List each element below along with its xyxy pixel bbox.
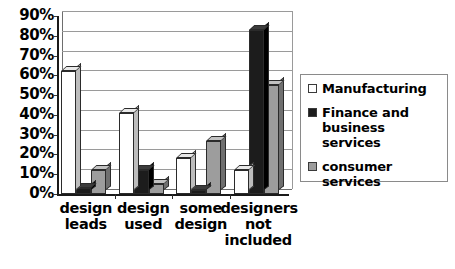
y-axis-tick-label: 10% bbox=[2, 164, 54, 182]
bar-side bbox=[76, 63, 81, 190]
bar-face bbox=[76, 188, 91, 194]
bar-face bbox=[119, 113, 134, 194]
y-axis-tick-label: 80% bbox=[2, 26, 54, 44]
x-axis-line bbox=[57, 194, 289, 196]
legend-label: consumer services bbox=[322, 159, 443, 189]
bar bbox=[76, 188, 91, 194]
bar-side bbox=[221, 133, 226, 190]
bar bbox=[191, 190, 206, 194]
legend-item-consumer: consumer services bbox=[308, 159, 443, 189]
plot-right-border bbox=[292, 11, 293, 189]
x-axis-tick-mark bbox=[172, 194, 173, 199]
legend-label: Finance and business services bbox=[322, 105, 443, 150]
y-axis-tick-label: 90% bbox=[2, 6, 54, 24]
x-axis-tick-mark bbox=[230, 194, 231, 199]
bar-face bbox=[191, 190, 206, 194]
bar-face bbox=[176, 158, 191, 194]
bar bbox=[119, 113, 134, 194]
y-axis-tick-label: 0% bbox=[2, 184, 54, 202]
grid-line bbox=[62, 11, 292, 12]
x-axis-category-label-line: not bbox=[221, 216, 297, 232]
x-axis-tick-mark bbox=[115, 194, 116, 199]
bar-side bbox=[264, 22, 269, 190]
bar bbox=[176, 158, 191, 194]
bars-layer bbox=[57, 16, 287, 194]
legend-item-manufacturing: Manufacturing bbox=[308, 81, 443, 96]
y-axis-line bbox=[57, 16, 59, 194]
bar-side bbox=[279, 77, 284, 190]
y-axis-tick-label: 40% bbox=[2, 105, 54, 123]
legend-item-finance: Finance and business services bbox=[308, 105, 443, 150]
bar bbox=[61, 71, 76, 194]
x-axis-category-label-line: included bbox=[221, 232, 297, 248]
y-axis-tick-label: 30% bbox=[2, 125, 54, 143]
gray-swatch-icon bbox=[308, 162, 317, 171]
bar-side bbox=[134, 105, 139, 190]
white-swatch-icon bbox=[308, 84, 317, 93]
x-axis-category-label-line: designers bbox=[221, 200, 297, 216]
bar-face bbox=[234, 170, 249, 194]
black-swatch-icon bbox=[308, 108, 317, 117]
y-axis: 90%80%70%60%50%40%30%20%10%0% bbox=[0, 0, 54, 269]
y-axis-tick-label: 60% bbox=[2, 65, 54, 83]
y-axis-tick-label: 50% bbox=[2, 85, 54, 103]
y-axis-tick-label: 20% bbox=[2, 144, 54, 162]
bar bbox=[234, 170, 249, 194]
bar-chart: 90%80%70%60%50%40%30%20%10%0% designlead… bbox=[0, 0, 455, 269]
chart-legend: Manufacturing Finance and business servi… bbox=[300, 74, 448, 182]
y-axis-tick-label: 70% bbox=[2, 46, 54, 64]
x-axis-category-label: designersnotincluded bbox=[221, 200, 297, 249]
legend-label: Manufacturing bbox=[322, 81, 427, 96]
bar-face bbox=[61, 71, 76, 194]
